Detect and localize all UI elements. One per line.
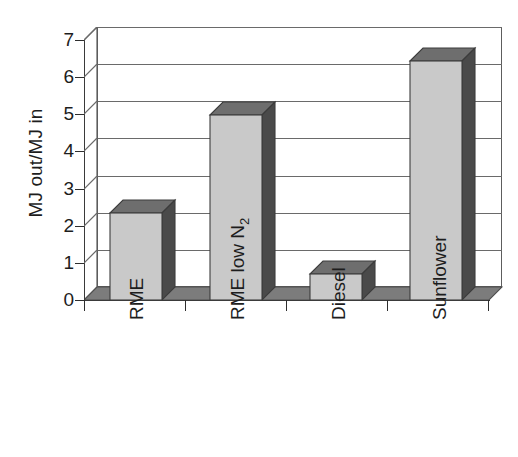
y-tick-connector-2 bbox=[84, 213, 97, 226]
x-tick-mark-3 bbox=[387, 300, 388, 311]
y-tick-mark-1 bbox=[75, 263, 84, 264]
gridline-7 bbox=[97, 27, 502, 28]
y-tick-mark-5 bbox=[75, 114, 84, 115]
y-tick-connector-4 bbox=[84, 138, 97, 151]
y-tick-mark-0 bbox=[75, 300, 84, 301]
y-tick-label-7: 7 bbox=[48, 30, 74, 49]
y-tick-connector-6 bbox=[84, 64, 97, 77]
y-tick-label-0: 0 bbox=[48, 290, 74, 309]
x-tick-mark-0 bbox=[84, 300, 85, 311]
x-tick-mark-4 bbox=[488, 300, 489, 311]
y-tick-connector-5 bbox=[84, 101, 97, 114]
y-axis-title: MJ out/MJ in bbox=[19, 53, 53, 273]
x-axis-label-rme: RME bbox=[124, 130, 150, 320]
y-tick-label-4: 4 bbox=[48, 141, 74, 160]
x-axis-label-sunflower: Sunflower bbox=[427, 130, 453, 320]
x-tick-mark-2 bbox=[286, 300, 287, 311]
y-tick-label-2: 2 bbox=[48, 216, 74, 235]
x-axis-label-diesel: Diesel bbox=[326, 130, 352, 320]
y-tick-label-3: 3 bbox=[48, 179, 74, 198]
y-tick-connector-1 bbox=[84, 250, 97, 263]
x-axis-label-rme-low-n2: RME low N2 bbox=[225, 130, 251, 320]
y-tick-connector-3 bbox=[84, 176, 97, 189]
y-tick-mark-6 bbox=[75, 77, 84, 78]
y-tick-mark-4 bbox=[75, 151, 84, 152]
y-tick-label-6: 6 bbox=[48, 67, 74, 86]
y-tick-connector-7 bbox=[84, 27, 97, 40]
bar-chart: MJ out/MJ in bbox=[0, 0, 518, 457]
y-tick-label-5: 5 bbox=[48, 104, 74, 123]
y-tick-label-1: 1 bbox=[48, 253, 74, 272]
y-tick-mark-2 bbox=[75, 226, 84, 227]
y-tick-mark-7 bbox=[75, 40, 84, 41]
x-tick-mark-1 bbox=[185, 300, 186, 311]
y-tick-mark-3 bbox=[75, 189, 84, 190]
